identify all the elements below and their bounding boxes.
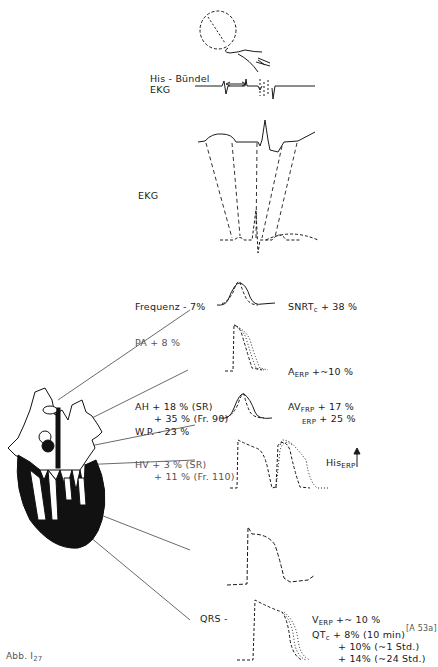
- caption-text: Abb. I: [6, 651, 33, 661]
- reference-label: [A 53a]: [406, 623, 437, 634]
- ekg-label: EKG: [138, 190, 158, 201]
- qrs-action-potential: [237, 600, 310, 660]
- his-ekg-label: EKG: [150, 84, 170, 95]
- atrial-action-potential: [225, 325, 268, 371]
- frequenz-label: Frequenz - 7%: [135, 301, 205, 312]
- wp-label: W.P. - 23 %: [135, 426, 189, 437]
- av-erp-value: + 25 %: [316, 413, 356, 424]
- qtc-value-1std: + 10% (~1 Std.): [338, 641, 419, 652]
- av-main: AV: [288, 401, 301, 412]
- heart-cross-section: [8, 388, 105, 548]
- aerp-label: AERP +~10 %: [288, 366, 353, 381]
- diagram-canvas: [0, 0, 438, 667]
- pa-label: PA + 8 %: [135, 337, 180, 348]
- figure-caption: Abb. I27: [6, 651, 42, 665]
- qrs-label: QRS -: [200, 613, 228, 624]
- caption-sub: 27: [33, 655, 42, 663]
- ah-label-fr90: + 35 % (Fr. 90): [154, 413, 228, 424]
- av-erp-label: ERP + 25 %: [302, 413, 356, 428]
- aerp-main: A: [288, 366, 295, 377]
- projection-lines: [206, 143, 297, 240]
- ah-label-sr: AH + 18 % (SR): [135, 401, 213, 412]
- his-action-potentials: [230, 440, 330, 488]
- frequenz-waveform: [217, 282, 275, 305]
- verp-main: V: [312, 614, 319, 625]
- verp-sub: ERP: [319, 619, 333, 627]
- snrt-label: SNRTc + 38 %: [288, 301, 357, 316]
- aerp-value: +~10 %: [309, 366, 353, 377]
- qtc-value-24std: + 14% (~24 Std.): [338, 653, 426, 664]
- small-ekg-trace: [220, 210, 318, 253]
- large-ekg-trace: [198, 120, 315, 152]
- qtc-value-10min: + 8% (10 min): [330, 629, 405, 640]
- ventricle-action-potential: [227, 527, 315, 585]
- catheter-sketch: [200, 11, 270, 72]
- his-sub: ERP: [341, 462, 355, 470]
- aerp-sub: ERP: [295, 371, 309, 379]
- av-erp-sub: ERP: [302, 418, 316, 426]
- his-bundle-label: His - Bündel: [150, 73, 210, 84]
- verp-value: +~ 10 %: [333, 614, 381, 625]
- hv-label-fr110: + 11 % (Fr. 110): [154, 471, 235, 482]
- his-main: His: [326, 457, 341, 468]
- verp-label: VERP +~ 10 %: [312, 614, 381, 629]
- av-value: + 17 %: [315, 401, 355, 412]
- hv-label-sr: HV + 3 % (SR): [135, 459, 206, 470]
- his-erp-label: HisERP: [326, 457, 355, 472]
- snrt-main: SNRT: [288, 301, 314, 312]
- qtc-main: QT: [312, 629, 326, 640]
- snrt-value: + 38 %: [318, 301, 358, 312]
- his-bundle-ekg-trace: [195, 79, 315, 99]
